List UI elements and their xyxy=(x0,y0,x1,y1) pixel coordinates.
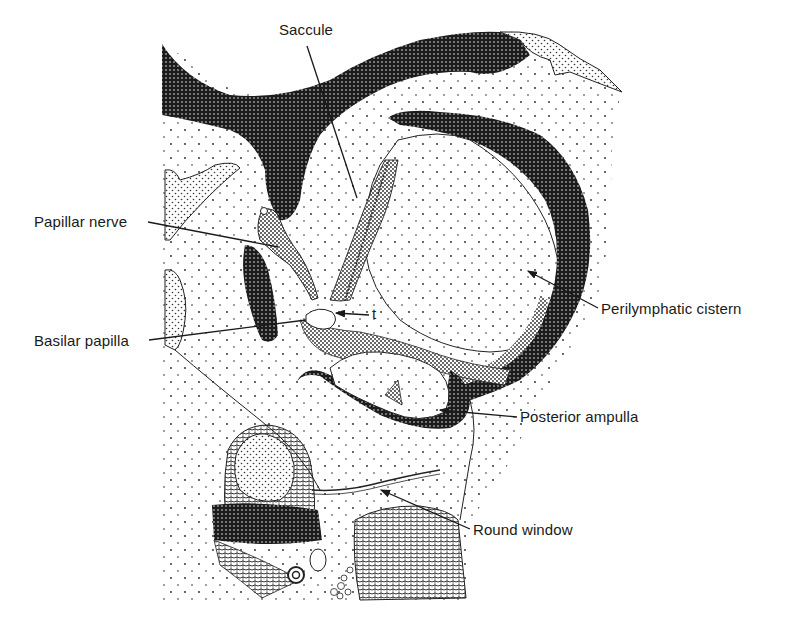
label-papillar-nerve: Papillar nerve xyxy=(34,214,127,229)
label-perilymphatic-cistern: Perilymphatic cistern xyxy=(601,301,741,316)
label-basilar-papilla: Basilar papilla xyxy=(34,333,129,348)
label-posterior-ampulla: Posterior ampulla xyxy=(520,409,638,424)
lower-capsule-dark-band xyxy=(212,503,322,544)
label-t: t xyxy=(372,306,376,321)
label-round-window: Round window xyxy=(473,522,573,537)
label-saccule: Saccule xyxy=(279,22,333,37)
